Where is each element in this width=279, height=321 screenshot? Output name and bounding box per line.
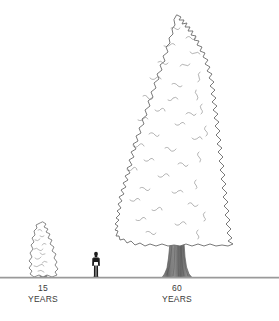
tree-mature-trunk [162,243,192,278]
label-tree-young-unit: YEARS [13,294,73,305]
tree-growth-comparison-diagram: 15 YEARS 60 YEARS [0,0,279,321]
label-tree-young-age: 15 [13,283,73,294]
label-tree-mature-unit: YEARS [147,294,207,305]
tree-young [29,222,58,278]
human-scale-figure [92,252,99,278]
illustration-canvas [0,0,279,321]
label-tree-mature-age: 60 [147,283,207,294]
label-tree-young: 15 YEARS [13,283,73,305]
tree-mature-crown [63,14,243,247]
label-tree-mature: 60 YEARS [147,283,207,305]
tree-young-crown [29,222,58,277]
tree-mature [63,14,243,278]
